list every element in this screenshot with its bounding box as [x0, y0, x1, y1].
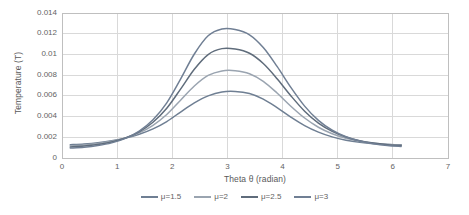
legend-label: μ=3	[314, 192, 328, 201]
legend-item[interactable]: μ=2.5	[241, 192, 281, 201]
chart-container: Temperature (T) 00.0020.0040.0060.0080.0…	[0, 0, 469, 215]
legend-item[interactable]: μ=1.5	[141, 192, 181, 201]
y-axis-tick-label: 0.004	[17, 111, 57, 120]
y-axis-tick-label: 0.008	[17, 70, 57, 79]
y-axis-tick-label: 0.01	[17, 49, 57, 58]
legend-item[interactable]: μ=2	[194, 192, 228, 201]
x-axis-tick-label: 6	[378, 162, 408, 171]
chart-legend: μ=1.5μ=2μ=2.5μ=3	[0, 192, 469, 201]
plot-background	[62, 13, 448, 158]
x-axis-title: Theta θ (radian)	[62, 174, 448, 184]
x-axis-tick-label: 1	[102, 162, 132, 171]
legend-line-swatch-icon	[141, 196, 158, 198]
x-axis-tick-label: 2	[157, 162, 187, 171]
legend-item[interactable]: μ=3	[294, 192, 328, 201]
y-axis-tick-label: 0.014	[17, 8, 57, 17]
legend-label: μ=1.5	[161, 192, 181, 201]
legend-label: μ=2	[214, 192, 228, 201]
x-axis-tick-label: 5	[323, 162, 353, 171]
y-axis-tick-label: 0.002	[17, 132, 57, 141]
x-axis-tick-label: 3	[212, 162, 242, 171]
legend-label: μ=2.5	[261, 192, 281, 201]
x-axis-tick-label: 0	[47, 162, 77, 171]
y-axis-tick-label: 0.012	[17, 28, 57, 37]
x-axis-tick-label: 4	[268, 162, 298, 171]
y-axis-tick-label: 0	[17, 153, 57, 162]
y-axis-tick-label: 0.006	[17, 90, 57, 99]
legend-line-swatch-icon	[294, 196, 311, 198]
legend-line-swatch-icon	[194, 196, 211, 198]
legend-line-swatch-icon	[241, 196, 258, 198]
x-axis-tick-label: 7	[433, 162, 463, 171]
